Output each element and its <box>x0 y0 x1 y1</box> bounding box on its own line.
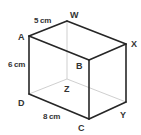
vertex-label-D: D <box>18 98 25 108</box>
dimension-label-AD: 6 cm <box>8 60 25 69</box>
vertex-label-B: B <box>76 61 83 71</box>
edge-BX <box>89 44 126 60</box>
vertex-label-Y: Y <box>120 110 126 120</box>
vertex-label-A: A <box>18 32 25 42</box>
edge-ZY-hidden <box>67 79 126 102</box>
vertex-label-Z: Z <box>64 84 70 94</box>
cuboid-diagram: A W X B Z D Y C 5 cm 6 cm 8 cm <box>0 0 141 135</box>
vertex-label-X: X <box>131 39 137 49</box>
vertex-label-W: W <box>70 10 79 20</box>
edge-DZ-hidden <box>29 79 67 94</box>
edge-WX <box>67 21 126 44</box>
dimension-label-DC: 8 cm <box>43 112 60 121</box>
edge-AB <box>29 36 89 60</box>
dimension-label-AW: 5 cm <box>34 16 51 25</box>
vertex-label-C: C <box>78 123 85 133</box>
